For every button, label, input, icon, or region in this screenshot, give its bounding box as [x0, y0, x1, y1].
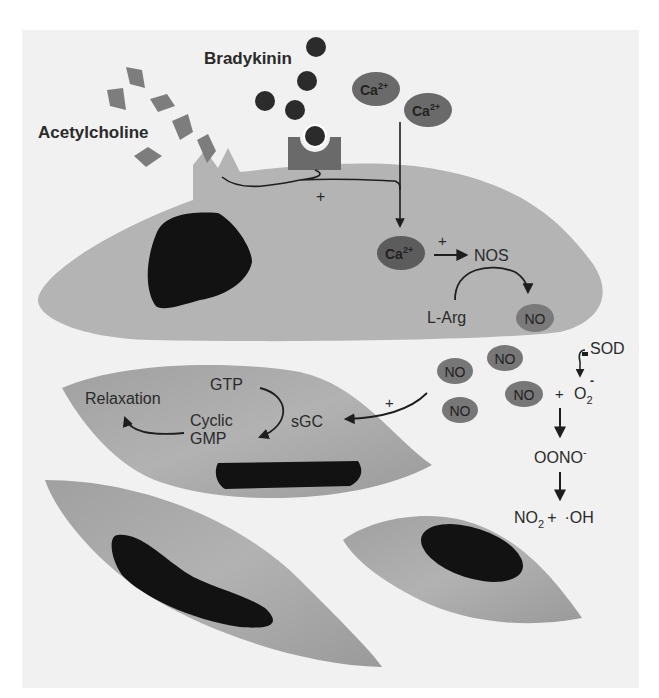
acetylcholine-label: Acetylcholine: [38, 123, 149, 142]
l-arg-label: L-Arg: [427, 309, 466, 326]
no-molecule: NO: [437, 358, 473, 384]
gtp-label: GTP: [210, 376, 243, 393]
nos-label: NOS: [474, 247, 509, 264]
peroxynitrite-label: OONO-: [534, 446, 587, 466]
superoxide-charge: -: [590, 374, 594, 388]
calcium-ion-outside-1: Ca2+: [352, 72, 400, 106]
gmp-label: GMP: [190, 430, 226, 447]
reaction-plus-sign: +: [555, 385, 564, 402]
no-molecule: NO: [487, 345, 523, 371]
svg-text:NO: NO: [525, 311, 546, 327]
no-sgc-plus-sign: +: [385, 394, 394, 411]
no-molecule: NO: [442, 397, 478, 423]
calcium-ion-outside-2: Ca2+: [404, 93, 452, 127]
svg-text:NO: NO: [450, 403, 471, 419]
no-reactant-oval: NO: [505, 381, 543, 407]
smooth-muscle-nucleus-upper: [216, 461, 361, 489]
no-signaling-diagram: Acetylcholine Bradykinin + Ca2+ Ca2+ Ca2…: [0, 0, 659, 698]
no-product-oval: NO: [516, 304, 554, 332]
sod-label: SOD: [590, 340, 625, 357]
ca-nos-plus-sign: +: [438, 232, 447, 249]
cyclic-label: Cyclic: [190, 412, 233, 429]
svg-text:NO: NO: [445, 364, 466, 380]
svg-text:NO: NO: [514, 387, 535, 403]
receptor-plus-sign: +: [316, 188, 325, 205]
relaxation-label: Relaxation: [85, 390, 161, 407]
sod-minus-sign: [582, 352, 588, 356]
bradykinin-label: Bradykinin: [204, 49, 292, 68]
calcium-ion-inside: Ca2+: [377, 236, 425, 270]
sgc-label: sGC: [291, 413, 323, 430]
svg-text:NO: NO: [495, 351, 516, 367]
